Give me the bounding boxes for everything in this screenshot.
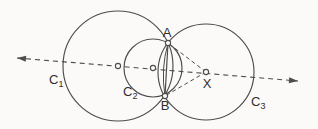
arrowhead-right [289,77,298,83]
point-marker-o2 [150,65,155,70]
label-b: B [161,98,170,113]
label-c2: C2 [123,84,137,101]
arrowhead-left [17,56,26,62]
dashed-segment-xa [168,43,206,72]
point-marker-a [165,40,170,45]
label-a: A [163,25,172,40]
diagram-canvas: ABXC1C2C3 [0,0,318,129]
dashed-segment-xb [165,72,206,96]
label-c3: C3 [251,94,265,111]
point-marker-x [203,69,208,74]
point-marker-o1 [115,63,120,68]
label-x: X [203,76,212,91]
geometry-diagram: ABXC1C2C3 [0,0,318,129]
label-c1: C1 [49,72,63,89]
